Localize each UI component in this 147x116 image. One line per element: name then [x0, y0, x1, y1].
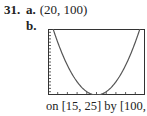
- axis-ticks: [48, 32, 135, 95]
- part-a: a.(20, 100): [26, 2, 87, 18]
- part-a-label: a.: [26, 2, 36, 17]
- parabola-graph: [48, 29, 145, 95]
- part-b-label: b.: [26, 18, 36, 34]
- parabola-curve: [53, 29, 140, 95]
- part-a-answer: (20, 100): [40, 2, 88, 17]
- problem-number: 31.: [4, 2, 20, 18]
- window-caption: on [15, 25] by [100, 120]: [46, 99, 147, 114]
- graph-frame: [49, 30, 145, 95]
